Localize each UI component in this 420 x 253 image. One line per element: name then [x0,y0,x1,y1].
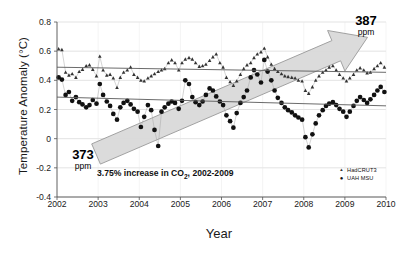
data-point [358,95,363,100]
data-point [204,93,209,98]
data-point [351,104,356,109]
data-point [303,135,308,140]
data-point [101,93,106,98]
data-point [149,108,154,113]
data-point [190,95,195,100]
data-point [224,113,229,118]
data-point [347,109,352,114]
data-point [248,75,253,80]
data-point [197,103,202,108]
data-point [146,103,151,108]
legend-item: ▲HadCRUT3 [337,166,377,174]
data-point [231,125,236,130]
caption-suffix: , 2002-2009 [188,168,234,178]
data-point [245,88,250,93]
data-point [70,98,75,103]
data-point [200,99,205,104]
data-point [272,88,277,93]
data-point [300,117,305,122]
temperature-anomaly-chart [0,0,420,253]
chart-legend: ▲HadCRUT3●UAH MSU [337,166,377,182]
x-tick-label: 2010 [364,199,408,209]
data-point [156,144,161,149]
data-point [341,109,346,114]
data-point [132,106,137,111]
data-point [162,105,167,110]
co2-increase-caption: 3.75% increase in CO2, 2002-2009 [97,168,233,180]
data-point [238,101,243,106]
data-point [142,114,147,119]
x-axis-title-text: Year [206,226,232,241]
data-point [241,95,246,100]
data-point [135,109,140,114]
data-point [221,103,226,108]
data-point [378,85,383,90]
data-point [228,119,233,124]
data-point [187,82,192,87]
data-point [80,102,85,107]
x-tick-label: 2009 [323,199,367,209]
data-point [128,102,133,107]
data-point [306,145,311,150]
legend-label: UAH MSU [347,175,374,181]
data-point [176,106,181,111]
data-point [115,117,120,122]
data-point [211,88,216,93]
data-point [382,90,387,95]
data-point [234,111,239,116]
co2-end-unit: ppm [345,28,387,37]
data-point [94,101,99,106]
data-point [214,94,219,99]
data-point [152,128,157,133]
co2-end-value: 387 [345,14,387,28]
data-point [74,95,79,100]
data-point [365,101,370,106]
x-tick-label: 2003 [76,199,120,209]
data-point [67,90,72,95]
data-point [259,80,264,85]
x-tick-label: 2006 [200,199,244,209]
filled-circle-icon: ● [337,175,346,181]
data-point [173,101,178,106]
legend-item: ●UAH MSU [337,174,377,182]
x-tick-label: 2007 [241,199,285,209]
co2-end-label: 387 ppm [345,14,387,37]
data-point [139,125,144,130]
data-point [344,114,349,119]
data-point [97,82,102,87]
data-point [368,97,373,102]
data-point [111,112,116,117]
data-point [108,104,113,109]
data-point [60,77,65,82]
caption-prefix: 3.75% increase in CO [97,168,184,178]
x-axis-title: Year [0,226,420,241]
data-point [87,103,92,108]
x-tick-label: 2004 [117,199,161,209]
data-point [317,113,322,118]
x-tick-label: 2008 [282,199,326,209]
data-point [334,103,339,108]
data-point [375,88,380,93]
co2-start-value: 373 [62,148,104,162]
data-point [183,78,188,83]
y-axis-title: Temperature Anomaly (°C) [17,11,29,201]
legend-label: HadCRUT3 [347,167,377,173]
data-point [104,99,109,104]
data-point [354,98,359,103]
data-point [320,108,325,113]
small-triangle-icon: ▲ [337,168,346,172]
data-point [269,78,274,83]
data-point [275,95,280,100]
data-point [159,109,164,114]
data-point [337,106,342,111]
x-tick-label: 2005 [158,199,202,209]
data-point [255,72,260,77]
data-point [118,105,123,110]
x-tick-label: 2002 [35,199,79,209]
data-point [310,132,315,137]
data-point [313,121,318,126]
data-point [372,93,377,98]
data-point [265,69,270,74]
data-point [262,58,267,63]
